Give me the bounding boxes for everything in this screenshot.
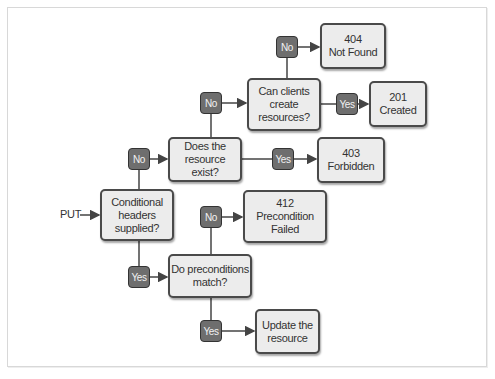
outcome-201-text: 201 Created (379, 91, 416, 117)
outcome-404-text: 404 Not Found (329, 33, 378, 59)
decision-conditional-headers-text: Conditional headers supplied? (111, 196, 163, 235)
branch-yes-resource-exists: Yes (272, 148, 294, 170)
outcome-412-precondition-failed: 412 Precondition Failed (243, 190, 327, 243)
branch-no-preconditions: No (200, 206, 222, 228)
branch-yes-preconditions: Yes (200, 320, 222, 342)
decision-preconditions-match: Do preconditions match? (168, 254, 252, 298)
outcome-update-text: Update the resource (262, 319, 313, 345)
decision-clients-create-text: Can clients create resources? (258, 85, 309, 124)
branch-no-conditional-headers: No (128, 148, 150, 170)
decision-preconditions-match-text: Do preconditions match? (171, 263, 249, 289)
decision-resource-exists-text: Does the resource exist? (170, 140, 240, 179)
outcome-403-text: 403 Forbidden (328, 147, 375, 173)
decision-clients-create: Can clients create resources? (247, 78, 321, 131)
branch-yes-clients-create: Yes (336, 93, 358, 115)
branch-no-clients-create: No (276, 36, 298, 58)
outcome-404-not-found: 404 Not Found (320, 23, 386, 69)
decision-resource-exists: Does the resource exist? (168, 137, 242, 182)
outcome-403-forbidden: 403 Forbidden (317, 137, 385, 183)
put-entry-label: PUT (60, 208, 81, 220)
decision-conditional-headers: Conditional headers supplied? (100, 189, 174, 241)
outcome-412-text: 412 Precondition Failed (256, 197, 314, 236)
branch-yes-conditional-headers: Yes (128, 266, 150, 288)
outcome-201-created: 201 Created (369, 81, 427, 127)
branch-no-resource-exists: No (200, 92, 222, 114)
outcome-update-resource: Update the resource (255, 309, 320, 354)
